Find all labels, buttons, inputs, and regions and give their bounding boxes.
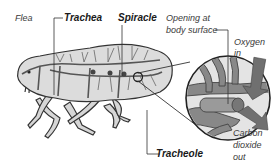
label-tracheole: Tracheole xyxy=(156,149,203,159)
label-carbon-line1: Carbon xyxy=(233,128,263,138)
label-carbon-line2: dioxide xyxy=(233,140,262,150)
label-spiracle: Spiracle xyxy=(118,13,157,23)
label-flea: Flea xyxy=(15,13,33,23)
label-opening-line2: body surface xyxy=(166,25,218,35)
label-opening-line1: Opening at xyxy=(166,13,210,23)
label-trachea: Trachea xyxy=(64,13,102,23)
label-oxygen-line2: in xyxy=(234,48,241,58)
flea-legs xyxy=(28,96,130,138)
label-carbon-line3: out xyxy=(233,152,246,162)
label-oxygen-line1: Oxygen xyxy=(234,37,265,47)
